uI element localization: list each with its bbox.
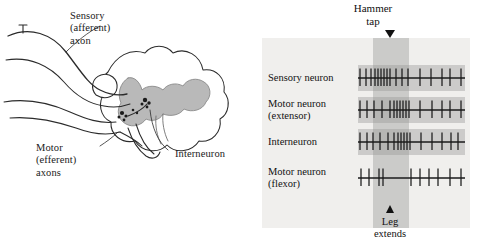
annotation-interneuron: Interneuron bbox=[175, 148, 225, 160]
spike-row-label: Interneuron bbox=[268, 136, 354, 148]
spike-row: Motor neuron (extensor) bbox=[262, 96, 470, 126]
spike-recording-panel: Sensory neuronMotor neuron (extensor)Int… bbox=[262, 38, 470, 228]
annotation-sensory-axon: Sensory (afferent) axon bbox=[70, 10, 110, 47]
spike-row: Interneuron bbox=[262, 128, 470, 158]
figure-root: Sensory (afferent) axon Motor (efferent)… bbox=[0, 0, 484, 246]
spinal-cord-illustration bbox=[0, 0, 256, 246]
spike-row: Sensory neuron bbox=[262, 64, 470, 94]
annotation-motor-axons: Motor (efferent) axons bbox=[36, 142, 76, 179]
spike-row-label: Sensory neuron bbox=[268, 72, 354, 84]
spike-train-trace bbox=[358, 97, 465, 123]
hammer-tap-label: Hammer tap bbox=[318, 2, 428, 28]
spike-train-trace bbox=[358, 165, 465, 191]
spike-row-label: Motor neuron (flexor) bbox=[268, 166, 354, 190]
reflex-arc-diagram: Sensory (afferent) axon Motor (efferent)… bbox=[0, 0, 256, 246]
spike-row-label: Motor neuron (extensor) bbox=[268, 98, 354, 122]
spike-train-trace bbox=[358, 65, 465, 91]
hammer-tap-arrow-icon bbox=[385, 30, 395, 38]
leg-extends-label: Leg extends bbox=[335, 216, 445, 240]
spike-row: Motor neuron (flexor) bbox=[262, 164, 470, 194]
leg-extends-arrow-icon bbox=[386, 205, 394, 213]
spike-train-trace bbox=[358, 129, 465, 155]
